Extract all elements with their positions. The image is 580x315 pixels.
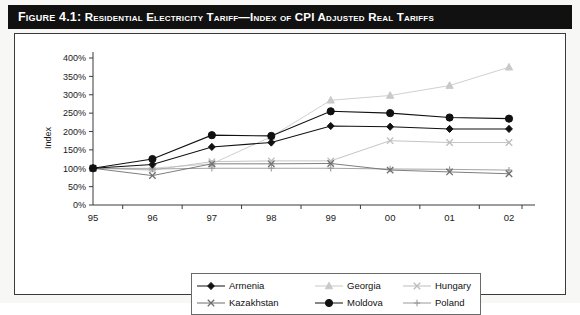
x-tick-label: 97	[207, 212, 218, 223]
legend-item-poland[interactable]: Poland	[402, 297, 482, 309]
legend-item-kazakhstan[interactable]: Kazakhstan	[196, 297, 314, 309]
y-axis-title: Index	[43, 126, 53, 149]
legend-item-georgia[interactable]: Georgia	[314, 280, 402, 292]
data-point-armenia-01	[446, 125, 453, 132]
line-chart: 0%50%100%150%200%250%300%350%400%Index95…	[15, 34, 565, 294]
legend-item-armenia[interactable]: Armenia	[196, 280, 314, 292]
data-point-moldova-00	[387, 110, 394, 117]
legend-item-hungary[interactable]: Hungary	[402, 280, 482, 292]
chart-frame: 0%50%100%150%200%250%300%350%400%Index95…	[14, 33, 566, 295]
x-tick-label: 00	[385, 212, 396, 223]
legend-label: Georgia	[344, 280, 381, 291]
x-tick-label: 95	[88, 212, 99, 223]
chart-series-layer	[89, 63, 512, 178]
data-point-moldova-99	[327, 108, 334, 115]
legend-item-moldova[interactable]: Moldova	[314, 297, 402, 309]
y-tick-label: 150%	[63, 145, 86, 155]
data-point-moldova-95	[89, 165, 96, 172]
data-point-armenia-00	[387, 123, 394, 130]
legend-marker-triangle-icon	[314, 280, 344, 292]
chart-axes	[89, 52, 535, 209]
y-tick-label: 50%	[68, 182, 86, 192]
legend-marker-x-icon	[402, 280, 432, 292]
data-point-moldova-02	[505, 115, 512, 122]
x-tick-label: 02	[504, 212, 515, 223]
x-tick-label: 96	[147, 212, 158, 223]
legend-label: Moldova	[344, 297, 383, 308]
y-tick-label: 300%	[63, 90, 86, 100]
chart-tick-labels: 0%50%100%150%200%250%300%350%400%Index95…	[43, 53, 514, 223]
data-point-poland-00	[387, 166, 393, 172]
x-tick-label: 99	[325, 212, 336, 223]
y-tick-label: 250%	[63, 108, 86, 118]
legend-marker-diamond-icon	[196, 280, 226, 292]
data-point-georgia-02	[505, 63, 512, 70]
x-tick-label: 98	[266, 212, 277, 223]
y-tick-label: 0%	[73, 200, 86, 210]
legend-label: Kazakhstan	[226, 297, 279, 308]
legend-marker-glyph	[208, 282, 215, 289]
data-point-moldova-01	[446, 114, 453, 121]
y-tick-label: 100%	[63, 164, 86, 174]
data-point-moldova-97	[208, 132, 215, 139]
legend-label: Armenia	[226, 280, 264, 291]
x-tick-label: 01	[444, 212, 455, 223]
page-title: Figure 4.1: Residential Electricity Tari…	[8, 10, 434, 24]
legend-label: Poland	[432, 297, 465, 308]
series-armenia	[90, 122, 513, 171]
legend-marker-glyph	[414, 299, 420, 305]
legend-marker-plus-icon	[402, 297, 432, 309]
data-point-armenia-99	[327, 122, 334, 129]
legend-label: Hungary	[432, 280, 471, 291]
chart-legend: ArmeniaGeorgiaHungaryKazakhstanMoldovaPo…	[191, 273, 481, 315]
y-tick-label: 400%	[63, 53, 86, 63]
data-point-armenia-97	[208, 143, 215, 150]
y-tick-label: 200%	[63, 127, 86, 137]
data-point-moldova-96	[149, 155, 156, 162]
legend-row: ArmeniaGeorgiaHungary	[196, 277, 476, 294]
figure-title-text: Residential Electricity Tariff—Index of …	[85, 11, 434, 23]
legend-marker-circle-icon	[314, 297, 344, 309]
legend-row: KazakhstanMoldovaPoland	[196, 294, 476, 311]
legend-marker-glyph	[325, 299, 332, 306]
y-tick-label: 350%	[63, 72, 86, 82]
data-point-armenia-02	[506, 125, 513, 132]
series-moldova	[89, 108, 512, 172]
figure-number: Figure 4.1:	[18, 10, 81, 24]
figure-title-bar: Figure 4.1: Residential Electricity Tari…	[8, 5, 572, 29]
data-point-moldova-98	[268, 132, 275, 139]
legend-marker-x-icon	[196, 297, 226, 309]
